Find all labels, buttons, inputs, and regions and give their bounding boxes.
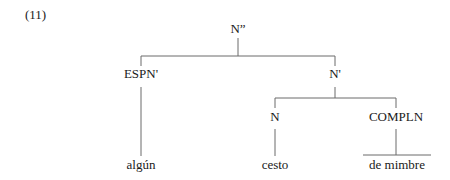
node-n: N bbox=[270, 110, 279, 124]
node-espn-bar: ESPN' bbox=[124, 67, 158, 81]
node-compln: COMPLN bbox=[369, 110, 423, 124]
tree-branches bbox=[0, 0, 450, 180]
leaf-de-mimbre: de mimbre bbox=[369, 158, 425, 172]
node-n-bar: N' bbox=[329, 67, 341, 81]
leaf-cesto: cesto bbox=[262, 158, 289, 172]
leaf-algun: algún bbox=[127, 158, 156, 172]
node-n-double-bar: N” bbox=[230, 22, 245, 36]
